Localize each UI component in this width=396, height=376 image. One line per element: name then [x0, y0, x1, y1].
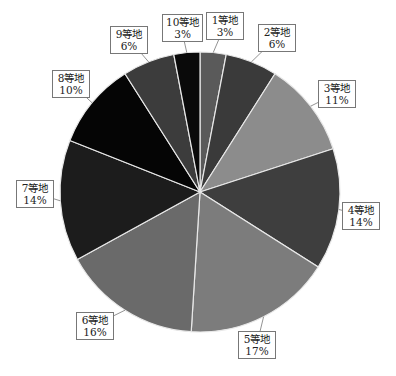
callout-percent: 3% [210, 26, 240, 38]
callout-percent: 17% [242, 345, 272, 357]
callout-category: 4等地 [346, 204, 376, 216]
callout-percent: 14% [346, 216, 376, 228]
callout-label-6: 6等地16% [76, 312, 114, 340]
callout-percent: 3% [166, 28, 199, 40]
callout-label-4: 4等地14% [342, 202, 380, 230]
pie-slices [60, 52, 340, 332]
callout-category: 1等地 [210, 14, 240, 26]
pie-chart [0, 0, 396, 376]
callout-percent: 16% [80, 326, 110, 338]
callout-percent: 6% [114, 40, 144, 52]
callout-category: 9等地 [114, 28, 144, 40]
callout-label-5: 5等地17% [238, 331, 276, 359]
callout-category: 5等地 [242, 333, 272, 345]
callout-label-9: 9等地6% [110, 26, 148, 54]
callout-category: 8等地 [56, 72, 86, 84]
callout-label-7: 7等地14% [16, 180, 54, 208]
callout-category: 3等地 [322, 82, 352, 94]
callout-category: 6等地 [80, 314, 110, 326]
callout-percent: 6% [262, 38, 292, 50]
callout-label-2: 2等地6% [258, 24, 296, 52]
callout-label-1: 1等地3% [206, 12, 244, 40]
callout-category: 10等地 [166, 16, 199, 28]
callout-percent: 11% [322, 94, 352, 106]
callout-label-10: 10等地3% [162, 14, 203, 42]
callout-label-8: 8等地10% [52, 70, 90, 98]
callout-category: 7等地 [20, 182, 50, 194]
callout-percent: 14% [20, 194, 50, 206]
callout-percent: 10% [56, 84, 86, 96]
callout-label-3: 3等地11% [318, 80, 356, 108]
callout-category: 2等地 [262, 26, 292, 38]
